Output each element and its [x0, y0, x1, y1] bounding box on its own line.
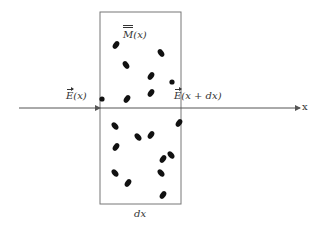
- particle: [166, 150, 176, 160]
- particle: [174, 118, 183, 128]
- particle: [110, 121, 120, 131]
- vector-e-symbol: E: [66, 90, 73, 101]
- particle: [146, 130, 155, 140]
- particle: [156, 168, 166, 178]
- particles-group: [99, 40, 183, 200]
- particle: [133, 132, 143, 142]
- medium-tensor-label: M(x): [123, 29, 147, 40]
- particle: [123, 178, 132, 188]
- slab-diagram: [0, 0, 320, 228]
- particle: [169, 79, 174, 84]
- particle: [146, 88, 155, 98]
- particle: [110, 168, 120, 178]
- particle: [111, 142, 120, 152]
- particle: [158, 190, 167, 200]
- particle: [111, 40, 120, 50]
- particle: [156, 48, 165, 58]
- particle: [158, 154, 167, 164]
- incident-field-label: E(x): [66, 90, 87, 101]
- particle: [99, 96, 104, 101]
- tensor-m-symbol: M: [123, 29, 133, 40]
- particle: [121, 60, 130, 70]
- thickness-label: dx: [134, 208, 146, 219]
- vector-e-symbol: E: [174, 90, 181, 101]
- axis-label: x: [302, 101, 308, 112]
- particle: [122, 94, 131, 104]
- transmitted-field-label: E(x + dx): [174, 90, 222, 101]
- particle: [146, 71, 155, 81]
